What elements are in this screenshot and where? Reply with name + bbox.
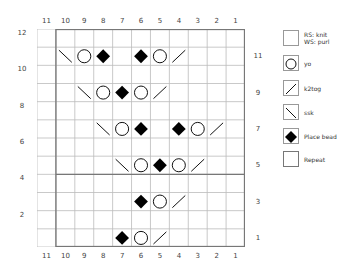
- bead-diamond-icon: [283, 128, 299, 144]
- top-column-label: 11: [37, 17, 56, 25]
- bottom-column-label: 2: [207, 252, 226, 260]
- top-column-label: 5: [150, 17, 169, 25]
- left-row-label: 6: [12, 138, 32, 146]
- bottom-column-label: 10: [56, 252, 75, 260]
- right-row-label: 9: [248, 89, 268, 97]
- bead-diamond-icon: [134, 122, 148, 136]
- yo-circle-icon: [153, 195, 166, 208]
- k2tog-slash-icon: [153, 87, 166, 99]
- top-column-label: 2: [207, 17, 226, 25]
- legend-item-ssk: ssk: [283, 104, 314, 120]
- k2tog-slash-icon: [172, 50, 185, 62]
- legend-label-bead: Place bead: [304, 133, 337, 140]
- yo-circle-icon: [283, 55, 299, 71]
- top-column-label: 4: [169, 17, 188, 25]
- top-column-label: 8: [94, 17, 113, 25]
- ssk-backslash-icon: [78, 87, 91, 99]
- left-row-label: 4: [12, 174, 32, 182]
- ssk-backslash-icon: [59, 50, 72, 62]
- right-row-label: 11: [248, 52, 268, 60]
- right-row-label: 7: [248, 125, 268, 133]
- bead-diamond-icon: [134, 195, 148, 209]
- right-row-label: 3: [248, 198, 268, 206]
- left-row-label: 2: [12, 211, 32, 219]
- top-column-label: 7: [113, 17, 132, 25]
- k2tog-slash-icon: [210, 123, 223, 135]
- bead-diamond-icon: [134, 49, 148, 63]
- k2tog-slash-icon: [283, 80, 299, 96]
- yo-circle-icon: [191, 122, 204, 135]
- legend-label-yo: yo: [304, 60, 311, 67]
- legend-label-knit-rs: RS: knit: [304, 31, 329, 38]
- left-row-label: 10: [12, 65, 32, 73]
- ssk-backslash-icon: [97, 123, 110, 135]
- yo-circle-icon: [153, 50, 166, 63]
- knitting-chart-grid: [37, 29, 245, 247]
- legend-label-repeat: Repeat: [304, 156, 325, 163]
- bottom-column-label: 9: [75, 252, 94, 260]
- bottom-column-label: 3: [188, 252, 207, 260]
- k2tog-slash-icon: [172, 196, 185, 208]
- ssk-backslash-icon: [116, 159, 129, 171]
- legend-item-k2tog: k2tog: [283, 80, 321, 96]
- bead-diamond-icon: [96, 49, 110, 63]
- legend-label-knit-ws: WS: purl: [304, 38, 329, 45]
- top-column-label: 6: [132, 17, 151, 25]
- bead-diamond-icon: [153, 158, 167, 172]
- bead-diamond-icon: [172, 122, 186, 136]
- legend-label-ssk: ssk: [304, 109, 314, 116]
- yo-circle-icon: [78, 50, 91, 63]
- left-row-label: 12: [12, 29, 32, 37]
- bottom-column-label: 6: [132, 252, 151, 260]
- right-row-label: 1: [248, 234, 268, 242]
- bead-diamond-icon: [115, 86, 129, 100]
- legend-item-knit: RS: knit WS: purl: [283, 30, 329, 46]
- left-row-label: 8: [12, 102, 32, 110]
- bottom-column-label: 7: [113, 252, 132, 260]
- bottom-column-label: 5: [150, 252, 169, 260]
- right-row-label: 5: [248, 161, 268, 169]
- yo-circle-icon: [134, 159, 147, 172]
- ssk-backslash-icon: [283, 104, 299, 120]
- repeat-box-icon: [283, 151, 299, 167]
- legend-label-k2tog: k2tog: [304, 85, 321, 92]
- legend-item-bead: Place bead: [283, 128, 337, 144]
- legend-item-repeat: Repeat: [283, 151, 325, 167]
- yo-circle-icon: [172, 159, 185, 172]
- bottom-column-label: 4: [169, 252, 188, 260]
- k2tog-slash-icon: [153, 232, 166, 244]
- top-column-label: 9: [75, 17, 94, 25]
- top-column-label: 10: [56, 17, 75, 25]
- legend-item-yo: yo: [283, 55, 311, 71]
- bottom-column-label: 8: [94, 252, 113, 260]
- bead-diamond-icon: [115, 231, 129, 245]
- yo-circle-icon: [134, 86, 147, 99]
- bottom-column-label: 1: [226, 252, 245, 260]
- yo-circle-icon: [97, 86, 110, 99]
- bottom-column-label: 11: [37, 252, 56, 260]
- k2tog-slash-icon: [191, 159, 204, 171]
- yo-circle-icon: [116, 122, 129, 135]
- top-column-label: 1: [226, 17, 245, 25]
- knit-symbol-icon: [283, 30, 299, 46]
- yo-circle-icon: [134, 231, 147, 244]
- top-column-label: 3: [188, 17, 207, 25]
